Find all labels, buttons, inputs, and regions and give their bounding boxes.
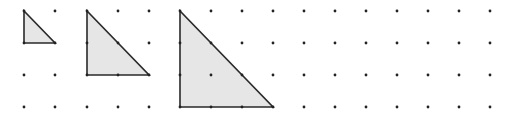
grid-dot bbox=[334, 10, 337, 13]
grid-dot bbox=[334, 106, 337, 109]
grid-dot bbox=[179, 10, 182, 13]
grid-dot bbox=[303, 106, 306, 109]
grid-dot bbox=[117, 10, 120, 13]
grid-dot bbox=[210, 42, 213, 45]
grid-dot bbox=[334, 42, 337, 45]
grid-dot bbox=[303, 42, 306, 45]
grid-dot bbox=[179, 74, 182, 77]
grid-dot bbox=[489, 106, 492, 109]
grid-dot bbox=[241, 74, 244, 77]
grid-dot bbox=[365, 106, 368, 109]
grid-dot bbox=[23, 106, 26, 109]
grid-dot bbox=[148, 106, 151, 109]
grid-dot bbox=[241, 10, 244, 13]
grid-dot bbox=[458, 42, 461, 45]
grid-dot bbox=[210, 106, 213, 109]
grid-dot bbox=[303, 10, 306, 13]
grid-dot bbox=[23, 42, 26, 45]
triangles-group bbox=[24, 11, 273, 107]
grid-dot bbox=[427, 74, 430, 77]
grid-dot bbox=[117, 42, 120, 45]
grid-dot bbox=[396, 106, 399, 109]
grid-dot bbox=[86, 106, 89, 109]
grid-dot bbox=[365, 74, 368, 77]
grid-dot bbox=[489, 74, 492, 77]
grid-dot bbox=[241, 106, 244, 109]
dot-grid-diagram bbox=[0, 0, 516, 131]
grid-dot bbox=[241, 42, 244, 45]
grid-dot bbox=[86, 10, 89, 13]
grid-dot bbox=[54, 74, 57, 77]
grid-dot bbox=[489, 10, 492, 13]
grid-dot bbox=[179, 106, 182, 109]
grid-dot bbox=[54, 10, 57, 13]
grid-dot bbox=[365, 10, 368, 13]
grid-dot bbox=[427, 42, 430, 45]
grid-dot bbox=[117, 74, 120, 77]
grid-dot bbox=[86, 74, 89, 77]
grid-dot bbox=[148, 10, 151, 13]
grid-dot bbox=[117, 106, 120, 109]
triangle-large bbox=[180, 11, 273, 107]
grid-dot bbox=[54, 106, 57, 109]
grid-dot bbox=[272, 106, 275, 109]
grid-dot bbox=[396, 10, 399, 13]
grid-dot bbox=[54, 42, 57, 45]
grid-dot bbox=[148, 74, 151, 77]
grid-dot bbox=[427, 106, 430, 109]
grid-dot bbox=[23, 74, 26, 77]
triangle-small bbox=[24, 11, 55, 43]
grid-dot bbox=[272, 74, 275, 77]
grid-dot bbox=[148, 42, 151, 45]
grid-dot bbox=[210, 74, 213, 77]
grid-dot bbox=[458, 74, 461, 77]
grid-dot bbox=[489, 42, 492, 45]
grid-dot bbox=[458, 10, 461, 13]
grid-dot bbox=[272, 42, 275, 45]
grid-dot bbox=[23, 10, 26, 13]
grid-dot bbox=[179, 42, 182, 45]
grid-dot bbox=[458, 106, 461, 109]
grid-dot bbox=[365, 42, 368, 45]
grid-dot bbox=[303, 74, 306, 77]
grid-dot bbox=[396, 74, 399, 77]
grid-dot bbox=[210, 10, 213, 13]
grid-dot bbox=[86, 42, 89, 45]
grid-dot bbox=[272, 10, 275, 13]
grid-dot bbox=[334, 74, 337, 77]
grid-dot bbox=[427, 10, 430, 13]
grid-dot bbox=[396, 42, 399, 45]
